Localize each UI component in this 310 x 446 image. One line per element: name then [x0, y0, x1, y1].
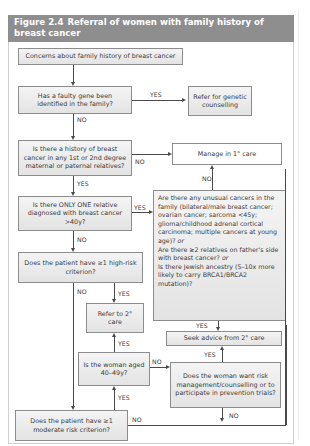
arrow-right-icon	[182, 98, 186, 102]
figure-number: Figure 2.4	[14, 17, 63, 27]
box-faulty-gene: Has a faulty gene been identified in the…	[18, 86, 132, 114]
or-connector: or	[222, 254, 228, 261]
label-yes: YES	[118, 290, 130, 297]
box-unusual-cancers: Are there any unusual cancers in the fam…	[153, 190, 286, 321]
connector-line	[222, 350, 223, 362]
label-no: NO	[135, 158, 145, 165]
box-want-risk-text: Does the woman want risk management/coun…	[174, 372, 277, 397]
connector-line	[114, 390, 115, 410]
arrow-up-icon	[112, 333, 116, 337]
connector-line	[212, 169, 213, 190]
figure-header: Figure 2.4Referral of women with family …	[8, 15, 294, 42]
label-no: NO	[152, 358, 162, 365]
connector-line	[73, 231, 74, 248]
arrow-up-icon	[210, 165, 214, 169]
label-yes: YES	[204, 351, 216, 358]
unusual-criterion-1: Are there any unusual cancers in the fam…	[158, 194, 277, 244]
box-seek-advice-text: Seek advice from 2° care	[184, 334, 265, 342]
connector-line	[73, 176, 74, 192]
box-only-one-text: Is there ONLY ONE relative diagnosed wit…	[22, 201, 128, 226]
label-no: NO	[202, 175, 212, 182]
box-concerns-text: Concerns about family history of breast …	[25, 52, 175, 60]
box-moderate-risk-text: Does the patient have ≥1 moderate risk c…	[19, 417, 124, 434]
unusual-criterion-2: Are there ≥2 relatives on father's side …	[158, 246, 278, 262]
box-aged: Is the woman aged 40–49y?	[78, 352, 150, 386]
box-manage-primary-text: Manage in 1° care	[198, 150, 256, 158]
arrow-up-icon	[112, 386, 116, 390]
adjacent-page-edge	[298, 10, 310, 440]
box-only-one: Is there ONLY ONE relative diagnosed wit…	[18, 196, 132, 231]
label-yes: YES	[150, 91, 162, 98]
connector-line	[114, 337, 115, 352]
label-yes: YES	[196, 322, 208, 329]
unusual-criterion-3: Is there Jewish ancestry (5–10x more lik…	[158, 263, 275, 287]
connector-line	[73, 114, 74, 136]
box-refer-secondary: Refer to 2° care	[86, 303, 144, 333]
connector-line	[132, 154, 168, 155]
connector-line	[73, 283, 74, 406]
box-faulty-gene-text: Has a faulty gene been identified in the…	[22, 92, 128, 109]
connector-line	[150, 367, 166, 368]
connector-line	[128, 425, 285, 426]
box-refer-secondary-text: Refer to 2° care	[90, 310, 140, 327]
or-connector: or	[178, 237, 184, 244]
connector-line	[73, 65, 74, 82]
connector-line	[132, 100, 182, 101]
connector-line	[132, 212, 149, 213]
label-yes: YES	[77, 180, 89, 187]
label-no: NO	[77, 288, 87, 295]
label-no: NO	[229, 412, 239, 419]
label-yes: YES	[118, 394, 130, 401]
label-no: NO	[77, 116, 87, 123]
box-manage-primary: Manage in 1° care	[172, 143, 282, 165]
connector-line	[114, 283, 115, 299]
box-history: Is there a history of breast cancer in a…	[18, 140, 132, 176]
connector-line	[286, 325, 287, 425]
box-high-risk-text: Does the patient have ≥1 high-risk crite…	[22, 259, 139, 276]
box-want-risk: Does the woman want risk management/coun…	[170, 362, 281, 408]
label-no: NO	[77, 236, 87, 243]
box-refer-genetic: Refer for genetic counselling	[188, 86, 252, 116]
arrow-down-icon	[220, 418, 224, 422]
box-history-text: Is there a history of breast cancer in a…	[22, 145, 128, 170]
arrow-up-icon	[220, 346, 224, 350]
label-yes: YES	[118, 340, 130, 347]
box-refer-genetic-text: Refer for genetic counselling	[192, 93, 248, 110]
label-yes: YES	[134, 204, 146, 211]
box-aged-text: Is the woman aged 40–49y?	[82, 361, 146, 378]
label-no: NO	[132, 416, 142, 423]
box-seek-advice: Seek advice from 2° care	[166, 331, 282, 346]
box-concerns: Concerns about family history of breast …	[18, 48, 183, 65]
box-moderate-risk: Does the patient have ≥1 moderate risk c…	[15, 410, 128, 441]
box-high-risk: Does the patient have ≥1 high-risk crite…	[18, 252, 143, 283]
